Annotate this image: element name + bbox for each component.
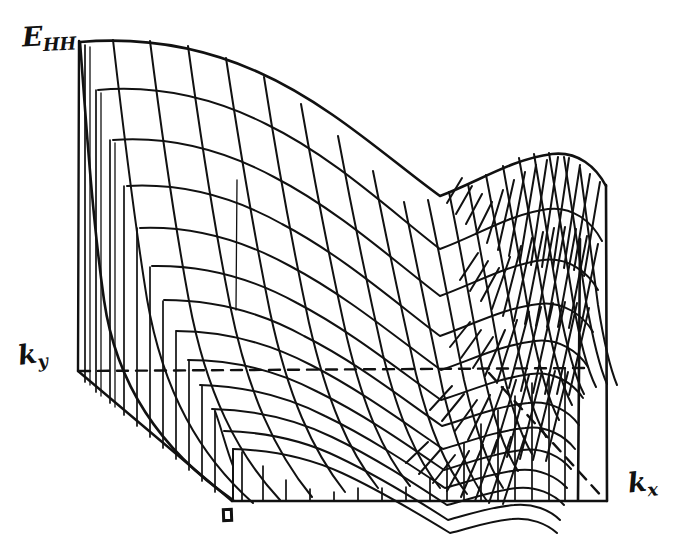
front-skirt-group xyxy=(215,411,233,500)
hump-hatch xyxy=(433,455,455,483)
skirt-edge xyxy=(215,411,233,466)
mesh-row xyxy=(212,409,564,505)
energy-axis-label: EHH xyxy=(21,21,76,55)
hump-hatch xyxy=(521,307,541,391)
scan-artifact-line xyxy=(236,180,237,310)
surface-plot-canvas: .ink { fill:none; stroke:#111111; stroke… xyxy=(0,0,693,556)
right-back-edge xyxy=(606,185,607,501)
ky-axis-label-main: k xyxy=(16,338,39,371)
energy-axis-label-sub: HH xyxy=(42,32,76,55)
energy-axis-label-main: E xyxy=(21,20,43,52)
kx-axis-label: kx xyxy=(626,467,658,501)
mesh-col xyxy=(188,46,312,497)
mesh-col xyxy=(226,58,345,492)
drop-line-group xyxy=(85,45,565,501)
hump-hatch xyxy=(507,375,529,457)
band-structure-figure: .ink { fill:none; stroke:#111111; stroke… xyxy=(0,0,693,556)
kx-axis-label-main: k xyxy=(626,466,648,499)
kx-axis-label-sub: x xyxy=(646,478,658,500)
mesh-col xyxy=(449,192,518,471)
energy-axis-line xyxy=(78,41,79,371)
mesh-col xyxy=(338,136,440,488)
mesh-row xyxy=(127,186,593,336)
origin-marker xyxy=(222,508,233,522)
hump-hatch-group xyxy=(406,157,600,504)
mesh-col xyxy=(549,153,596,387)
hump-hatch xyxy=(456,186,472,214)
hump-hatch xyxy=(514,238,532,321)
ky-axis-label: ky xyxy=(16,338,49,373)
hump-hatch xyxy=(447,178,462,203)
mesh-col xyxy=(264,77,378,488)
dashed-guide-horizontal xyxy=(79,368,585,371)
hump-hatch xyxy=(497,320,517,383)
mesh-row xyxy=(233,449,557,533)
hump-hatch xyxy=(481,387,503,447)
surface-mesh-group xyxy=(80,40,617,533)
